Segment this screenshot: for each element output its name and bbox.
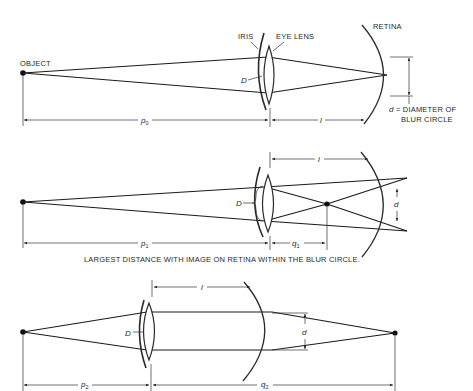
iris-leader	[251, 42, 258, 49]
blur-definition-line1: d = DIAMETER OF	[389, 105, 456, 114]
p0-label: p0	[140, 116, 149, 126]
ray-lower	[23, 332, 395, 350]
q2-label: q2	[261, 380, 269, 390]
ray-upper	[23, 57, 387, 75]
ray-cross-b	[265, 204, 327, 221]
l-label: l	[318, 155, 320, 164]
ray-lower	[23, 73, 387, 93]
eye-lens-label: EYE LENS	[276, 32, 314, 41]
l-label: l	[320, 116, 322, 125]
lens-leader	[273, 42, 284, 51]
aperture-label: D	[236, 199, 242, 208]
aperture-label: D	[125, 329, 131, 338]
retina-arc	[361, 152, 383, 257]
diagram-in-focus: OBJECT IRIS EYE LENS D RETINA d = DIAMET…	[20, 22, 456, 127]
p2-label: p2	[80, 380, 89, 390]
ray-lower	[23, 202, 407, 231]
eye-lens	[264, 46, 274, 104]
object-label: OBJECT	[20, 59, 51, 68]
q1-label: q1	[292, 239, 300, 249]
retina-label: RETINA	[373, 22, 402, 31]
blur-circle-diagram: OBJECT IRIS EYE LENS D RETINA d = DIAMET…	[0, 0, 473, 391]
image-point	[324, 201, 329, 206]
aperture-brace	[252, 186, 263, 221]
d-label: d	[394, 200, 399, 209]
iris-arc	[255, 167, 263, 237]
ray-upper	[23, 312, 395, 333]
caption: LARGEST DISTANCE WITH IMAGE ON RETINA WI…	[84, 255, 360, 264]
ray-upper	[23, 178, 407, 202]
retina-arc	[243, 282, 265, 381]
p1-label: p1	[140, 239, 149, 249]
diagram-far-point: D l d p2 q2	[20, 280, 397, 391]
eye-lens	[263, 175, 274, 232]
d-label: d	[302, 328, 307, 337]
iris-label: IRIS	[238, 32, 253, 41]
blur-definition-line2: BLUR CIRCLE	[401, 115, 453, 124]
l-label: l	[201, 283, 203, 292]
aperture-leader	[248, 76, 262, 80]
ray-cross-a	[265, 187, 327, 204]
aperture-label: D	[241, 76, 247, 85]
diagram-near-point: D l d p1 q1 LARGEST DISTANCE WITH IMAGE …	[20, 152, 407, 264]
